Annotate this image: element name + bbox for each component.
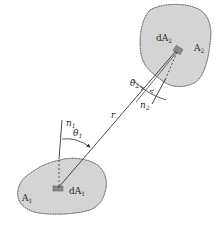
angle-arc-theta1 bbox=[62, 139, 90, 147]
view-factor-diagram: dA2 A2 θ2 n2 r n1 θ1 dA1 A1 bbox=[0, 0, 221, 235]
normal-n2 bbox=[152, 78, 166, 104]
surface-a1 bbox=[18, 158, 107, 214]
distance-line-r bbox=[58, 51, 176, 188]
label-theta2: θ2 bbox=[130, 78, 139, 89]
label-theta1: θ1 bbox=[73, 128, 82, 139]
element-da1 bbox=[53, 186, 63, 191]
normal-n1 bbox=[59, 120, 62, 159]
label-r: r bbox=[111, 110, 116, 120]
label-n2: n2 bbox=[140, 100, 150, 111]
